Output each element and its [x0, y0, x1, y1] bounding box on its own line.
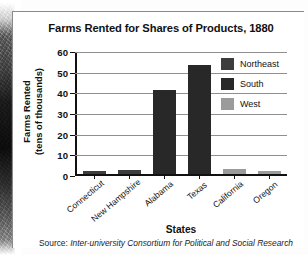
- x-axis-category: California: [217, 178, 252, 230]
- bar[interactable]: [188, 65, 211, 175]
- y-axis-tick-label: 20: [57, 129, 68, 140]
- legend-label: West: [240, 99, 260, 109]
- y-axis-title-line1: Farms Rented: [21, 52, 33, 172]
- y-axis-tick-label: 50: [57, 67, 68, 78]
- legend-item[interactable]: South: [221, 77, 305, 90]
- bar-slot: [147, 52, 182, 174]
- bar[interactable]: [153, 90, 176, 175]
- y-axis-title-line2: (tens of thousands): [32, 52, 44, 172]
- y-axis-tick: [70, 135, 75, 136]
- legend-label: Northeast: [240, 59, 279, 69]
- source-note: Source: Inter-university Consortium for …: [27, 238, 305, 248]
- chart-card: Farms Rented for Shares of Products, 188…: [12, 11, 304, 248]
- x-axis-category-label: Alabama: [143, 179, 175, 208]
- y-axis-tick: [70, 176, 75, 177]
- x-axis-category-labels: ConnecticutNew HampshireAlabamaTexasCali…: [77, 178, 287, 230]
- legend-item[interactable]: Northeast: [221, 57, 305, 70]
- x-axis-line: [75, 174, 287, 176]
- y-axis-tick-label: 40: [57, 88, 68, 99]
- screenshot-root: Farms Rented for Shares of Products, 188…: [0, 0, 308, 255]
- y-axis-tick: [70, 52, 75, 53]
- bar-slot: [77, 52, 112, 174]
- x-axis-category-label: Texas: [185, 180, 209, 202]
- legend-item[interactable]: West: [221, 97, 305, 110]
- x-axis-category: Oregon: [252, 178, 287, 230]
- x-axis-category: Alabama: [147, 178, 182, 230]
- chart-legend: NortheastSouthWest: [221, 57, 305, 117]
- x-axis-category: New Hampshire: [112, 178, 147, 230]
- y-axis-tick-label: 30: [57, 109, 68, 120]
- legend-swatch: [221, 98, 234, 110]
- y-axis-tick-label: 10: [57, 150, 68, 161]
- x-axis-category-label: Oregon: [251, 179, 279, 205]
- y-axis-tick: [70, 73, 75, 74]
- legend-swatch: [221, 58, 234, 70]
- x-axis-title: States: [75, 224, 287, 235]
- y-axis-tick-label: 60: [57, 47, 68, 58]
- bar-slot: [182, 52, 217, 174]
- y-axis-tick: [70, 114, 75, 115]
- legend-swatch: [221, 78, 234, 90]
- source-lead: Source:: [39, 238, 70, 248]
- y-axis-tick: [70, 93, 75, 94]
- legend-label: South: [240, 79, 264, 89]
- y-axis-title: Farms Rented (tens of thousands): [21, 52, 44, 172]
- y-axis-tick: [70, 155, 75, 156]
- x-axis-category-label: California: [211, 179, 245, 210]
- source-body: Inter-university Consortium for Politica…: [70, 238, 293, 248]
- y-axis-tick-label: 0: [63, 171, 68, 182]
- bar-slot: [112, 52, 147, 174]
- chart-title: Farms Rented for Shares of Products, 188…: [27, 22, 295, 34]
